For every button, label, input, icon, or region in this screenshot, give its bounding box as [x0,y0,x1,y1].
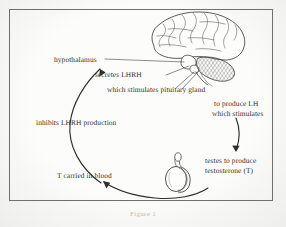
leader-hypothalamus [105,59,184,62]
label-hypothalamus: hypothalamus [54,56,97,64]
label-t-carried-in-blood: T carried in blood [57,172,112,180]
figure-page: hypothalamus secretes LHRH which stimula… [0,0,286,227]
arrowhead-to-testes [232,145,239,152]
figure-caption: Figure 1 [0,210,286,218]
testis-illustration [166,153,191,192]
label-stimulates-pituitary: which stimulates pituitary gland [107,86,205,94]
leader-secretes [166,66,189,75]
arrow-bottom-arc [104,182,208,199]
label-secretes-lhrh: secretes LHRH [95,71,142,79]
label-testes-produce: testes to produce [205,157,256,165]
label-which-stimulates: which stimulates [212,110,263,118]
label-testosterone: testosterone (T) [205,167,253,175]
label-inhibits-lhrh: inhibits LHRH production [36,119,116,127]
arrow-right [236,118,239,150]
label-produce-lh: to produce LH [214,100,258,108]
